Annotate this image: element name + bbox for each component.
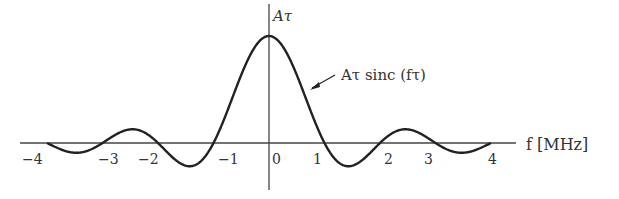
tick-label: 0: [272, 151, 281, 167]
tick-label: 2: [384, 151, 393, 167]
tick-label: 3: [424, 151, 433, 167]
tick-label: −4: [22, 151, 43, 167]
curve-label: Aτ sinc (fτ): [340, 66, 426, 84]
x-axis-label: f [MHz]: [526, 135, 588, 154]
tick-label: −3: [98, 151, 119, 167]
arrow-head-icon: [310, 82, 320, 90]
tick-label: −1: [218, 151, 239, 167]
x-tick-labels: −4 −3 −2 −1 0 1 2 3 4: [22, 151, 497, 167]
tick-label: −2: [138, 151, 159, 167]
tick-label: 4: [488, 151, 497, 167]
tick-label: 1: [313, 151, 322, 167]
sinc-diagram: Aτ Aτ sinc (fτ) f [MHz] −4 −3 −2 −1 0 1 …: [0, 0, 619, 199]
peak-label: Aτ: [271, 7, 293, 25]
